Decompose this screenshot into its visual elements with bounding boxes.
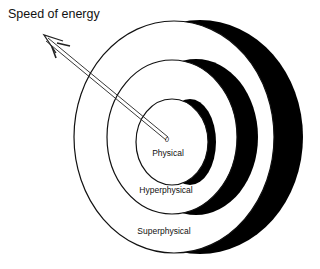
energy-rings-diagram: Speed of energy 0 Physical Hyperphysical…: [0, 0, 320, 269]
physical-ring: [136, 99, 208, 185]
physical-label: Physical: [152, 148, 184, 158]
origin-label: 0: [165, 136, 169, 143]
hyperphysical-label: Hyperphysical: [139, 185, 192, 195]
diagram-title: Speed of energy: [8, 7, 100, 21]
superphysical-label: Superphysical: [137, 226, 190, 236]
